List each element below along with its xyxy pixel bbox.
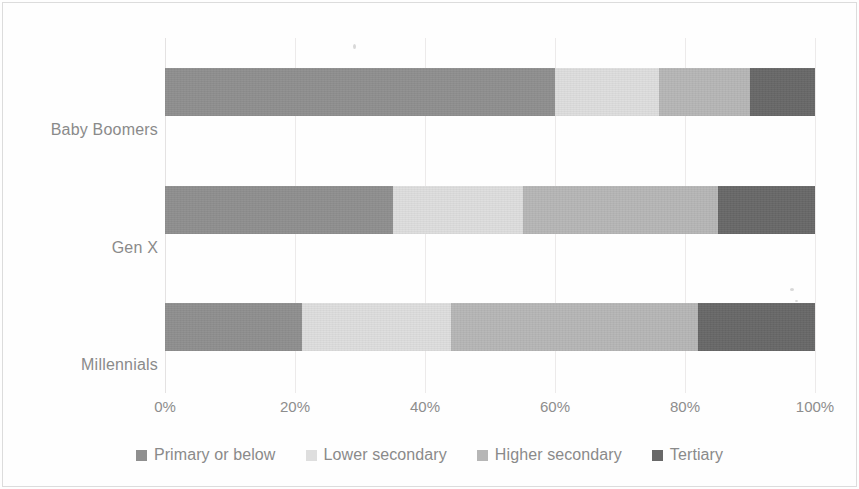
x-tick-label-40: 40% <box>410 398 440 415</box>
bar-segment <box>302 303 452 351</box>
bar-segment <box>750 68 815 116</box>
bar-segment <box>165 68 555 116</box>
y-tick-label-millennials: Millennials <box>8 356 158 374</box>
legend-label: Tertiary <box>670 446 723 464</box>
legend-swatch-icon <box>136 450 147 461</box>
bars-layer <box>165 38 815 393</box>
legend-item[interactable]: Tertiary <box>652 446 723 464</box>
x-tick-label-20: 20% <box>280 398 310 415</box>
legend-label: Lower secondary <box>324 446 447 464</box>
bar-segment <box>393 186 523 234</box>
bar-segment <box>165 186 393 234</box>
legend-label: Higher secondary <box>495 446 622 464</box>
bar-segment <box>659 68 750 116</box>
x-tick-label-100: 100% <box>796 398 834 415</box>
chart-container: Baby Boomers Gen X Millennials 0%20%40%6… <box>0 0 859 489</box>
bar-row <box>165 303 815 351</box>
bar-segment <box>698 303 815 351</box>
x-tick-label-0: 0% <box>154 398 176 415</box>
legend-swatch-icon <box>477 450 488 461</box>
legend-swatch-icon <box>652 450 663 461</box>
x-tick-label-60: 60% <box>540 398 570 415</box>
y-tick-label-gen-x: Gen X <box>8 239 158 257</box>
legend-item[interactable]: Higher secondary <box>477 446 622 464</box>
legend-label: Primary or below <box>154 446 276 464</box>
bar-row <box>165 186 815 234</box>
gridline-100 <box>815 38 816 393</box>
bar-segment <box>451 303 698 351</box>
plot-area <box>165 38 815 393</box>
y-axis: Baby Boomers Gen X Millennials <box>0 38 158 393</box>
bar-segment <box>718 186 816 234</box>
x-axis: 0%20%40%60%80%100% <box>165 398 815 422</box>
legend-item[interactable]: Primary or below <box>136 446 276 464</box>
bar-segment <box>523 186 718 234</box>
bar-segment <box>555 68 659 116</box>
x-tick-label-80: 80% <box>670 398 700 415</box>
legend-item[interactable]: Lower secondary <box>306 446 447 464</box>
bar-segment <box>165 303 302 351</box>
legend-swatch-icon <box>306 450 317 461</box>
bar-row <box>165 68 815 116</box>
chart-legend: Primary or belowLower secondaryHigher se… <box>0 446 859 464</box>
y-tick-label-baby-boomers: Baby Boomers <box>8 121 158 139</box>
